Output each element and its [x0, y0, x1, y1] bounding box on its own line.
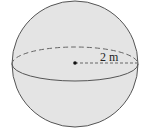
radius-label: 2 m — [100, 50, 119, 64]
center-point — [73, 61, 77, 65]
sphere-diagram: 2 m — [0, 0, 143, 134]
sphere-figure: 2 m — [0, 0, 143, 134]
